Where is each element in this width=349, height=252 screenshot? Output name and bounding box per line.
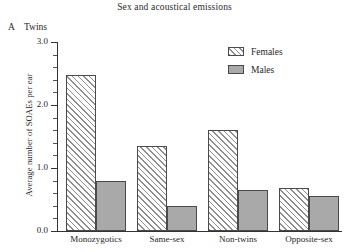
y-tick-minor [53, 218, 57, 219]
bar-females-non-twins [208, 130, 238, 231]
y-tick-minor [53, 181, 57, 182]
panel-name: Twins [24, 22, 47, 32]
y-tick-label: 0.0 [22, 226, 48, 235]
panel-label: ATwins [8, 22, 47, 32]
bar-males-non-twins [238, 190, 268, 231]
bar-group [66, 42, 126, 231]
y-tick-minor [53, 80, 57, 81]
y-tick-minor [53, 206, 57, 207]
legend-label-females: Females [251, 47, 283, 57]
y-tick-label: 3.0 [22, 37, 48, 46]
y-tick-label: 1.0 [22, 163, 48, 172]
y-tick-minor [53, 130, 57, 131]
legend-swatch-males-icon [228, 65, 244, 74]
bar-chart: Sex and acoustical emissions ATwins Aver… [0, 0, 349, 252]
bar-females-monozygotics [66, 75, 96, 231]
legend-item-males: Males [228, 62, 283, 77]
bar-females-same-sex [137, 146, 167, 231]
y-tick-minor [53, 55, 57, 56]
y-tick-major [51, 168, 57, 169]
y-tick-minor [53, 193, 57, 194]
y-tick-minor [53, 67, 57, 68]
bar-males-opposite-sex [309, 196, 339, 231]
y-tick-minor [53, 92, 57, 93]
bar-males-same-sex [167, 206, 197, 231]
x-tick-label: Opposite-sex [264, 234, 349, 244]
legend-swatch-females-icon [228, 47, 244, 56]
bar-group [279, 42, 339, 231]
y-tick-major [51, 105, 57, 106]
legend: Females Males [228, 44, 283, 80]
y-tick-minor [53, 143, 57, 144]
legend-item-females: Females [228, 44, 283, 59]
y-axis-title: Average number of SOAEs per ear [24, 43, 34, 228]
bar-males-monozygotics [96, 181, 126, 231]
y-tick-major [51, 42, 57, 43]
x-axis-line [57, 231, 342, 232]
y-tick-major [51, 231, 57, 232]
legend-label-males: Males [251, 65, 274, 75]
plot-area [58, 42, 342, 231]
panel-letter: A [8, 22, 15, 32]
y-tick-minor [53, 155, 57, 156]
bar-females-opposite-sex [279, 188, 309, 231]
chart-title: Sex and acoustical emissions [0, 2, 349, 12]
bar-group [137, 42, 197, 231]
y-tick-minor [53, 118, 57, 119]
y-tick-label: 2.0 [22, 100, 48, 109]
